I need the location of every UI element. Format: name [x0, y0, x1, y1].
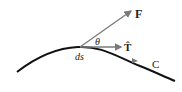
arc-element-label: ds	[75, 51, 84, 62]
angle-label: θ	[95, 36, 100, 47]
curve-label: C	[152, 58, 159, 70]
curve-direction-arrow	[132, 58, 138, 63]
tangent-label: T̂	[124, 41, 132, 53]
line-integral-diagram: F T̂ θ ds C	[0, 0, 182, 92]
force-label: F	[135, 7, 142, 21]
